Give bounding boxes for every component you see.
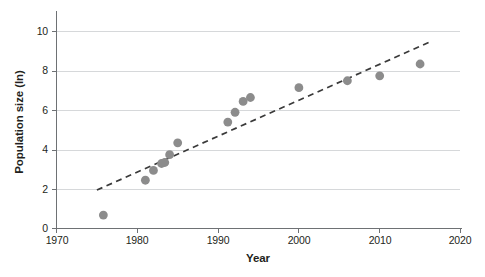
data-point: [149, 166, 158, 175]
x-tick-label-1970: 1970: [34, 234, 80, 246]
data-point: [165, 150, 174, 159]
x-axis-tickmarks: [57, 229, 461, 234]
x-axis-title: Year: [56, 252, 460, 264]
data-point: [160, 158, 169, 167]
y-tick-label-4: 4: [22, 143, 48, 155]
x-tick-label-1990: 1990: [195, 234, 241, 246]
y-tick-label-2: 2: [22, 183, 48, 195]
trend-line: [97, 42, 429, 190]
axis-lines: [56, 11, 462, 229]
data-point: [343, 76, 352, 85]
x-tick-label-2000: 2000: [276, 234, 322, 246]
data-point: [173, 138, 182, 147]
data-points: [99, 60, 425, 220]
y-tick-label-10: 10: [22, 25, 48, 37]
data-point: [223, 118, 232, 127]
x-tick-label-2010: 2010: [357, 234, 403, 246]
y-tick-label-8: 8: [22, 64, 48, 76]
data-point: [416, 60, 425, 69]
data-point: [246, 93, 255, 102]
data-point: [375, 71, 384, 80]
data-point: [141, 176, 150, 185]
data-point: [231, 108, 240, 117]
x-tick-label-1980: 1980: [114, 234, 160, 246]
data-point: [295, 83, 304, 92]
data-point: [99, 211, 108, 220]
y-axis-tickmarks: [52, 32, 56, 229]
x-tick-label-2020: 2020: [437, 234, 483, 246]
scatter-chart: Population size (ln): [0, 0, 485, 277]
y-tick-label-0: 0: [22, 222, 48, 234]
y-tick-label-6: 6: [22, 104, 48, 116]
